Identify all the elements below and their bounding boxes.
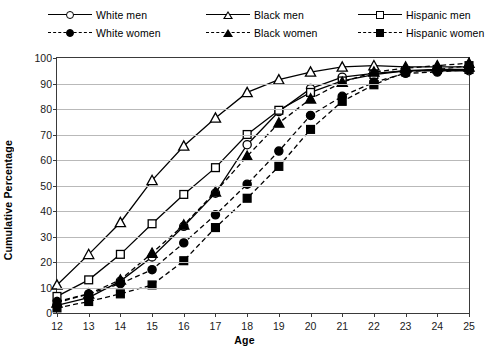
y-tick-label: 10 (40, 282, 52, 294)
data-point-marker (180, 191, 188, 199)
legend-swatch-square-filled-icon (358, 27, 402, 39)
legend-item-black-men[interactable]: Black men (206, 7, 304, 23)
legend-marker-triangle-open-icon (223, 11, 233, 19)
y-tick-label: 20 (40, 256, 52, 268)
data-point-marker (210, 113, 220, 122)
x-tick-label: 14 (115, 320, 127, 332)
legend-item-white-men[interactable]: White men (48, 7, 147, 23)
x-tick-mark (57, 313, 58, 317)
data-point-marker (370, 81, 378, 89)
y-axis-title: Cumulative Percentage (2, 140, 16, 260)
x-tick-label: 17 (210, 320, 222, 332)
data-point-marker (180, 257, 188, 265)
y-tick-mark (53, 262, 57, 263)
x-tick-mark (152, 313, 153, 317)
y-tick-mark (53, 186, 57, 187)
series-line (57, 71, 469, 306)
data-point-marker (275, 147, 283, 155)
x-tick-label: 12 (51, 320, 63, 332)
legend-item-label: Black men (254, 10, 304, 21)
y-tick-label: 100 (34, 52, 52, 64)
gridline-y (57, 160, 469, 161)
data-point-marker (465, 62, 473, 70)
data-point-marker (306, 111, 314, 119)
x-tick-label: 18 (241, 320, 253, 332)
x-tick-mark (184, 313, 185, 317)
data-point-marker (85, 276, 93, 284)
legend-item-label: Black women (254, 28, 318, 39)
x-tick-label: 22 (368, 320, 380, 332)
x-tick-mark (406, 313, 407, 317)
legend-swatch-circle-open-icon (48, 9, 92, 21)
x-tick-label: 21 (336, 320, 348, 332)
x-tick-mark (279, 313, 280, 317)
y-tick-label: 60 (40, 154, 52, 166)
x-tick-mark (311, 313, 312, 317)
legend-item-label: Hispanic women (406, 28, 484, 39)
gridline-y (57, 109, 469, 110)
legend-item-black-women[interactable]: Black women (206, 25, 318, 41)
gridline-y (57, 237, 469, 238)
data-point-marker (116, 290, 124, 298)
x-axis-title: Age (0, 334, 489, 346)
x-tick-mark (469, 313, 470, 317)
data-point-marker (148, 266, 156, 274)
gridline-y (57, 84, 469, 85)
legend-marker-circle-filled-icon (66, 29, 74, 37)
y-tick-label: 90 (40, 78, 52, 90)
gridline-y (57, 288, 469, 289)
data-point-marker (243, 194, 251, 202)
y-tick-label: 0 (46, 307, 52, 319)
legend-swatch-circle-filled-icon (48, 27, 92, 39)
data-point-marker (180, 239, 188, 247)
data-point-marker (53, 304, 61, 312)
x-tick-label: 23 (400, 320, 412, 332)
x-tick-label: 16 (178, 320, 190, 332)
series-line (57, 66, 469, 308)
data-point-marker (212, 224, 220, 232)
legend-item-hispanic-women[interactable]: Hispanic women (358, 25, 484, 41)
x-tick-label: 19 (273, 320, 285, 332)
y-tick-label: 70 (40, 129, 52, 141)
chart-legend: White menWhite womenBlack menBlack women… (48, 6, 478, 42)
data-point-marker (307, 126, 315, 134)
y-tick-label: 30 (40, 231, 52, 243)
data-point-marker (243, 141, 251, 149)
y-tick-mark (53, 58, 57, 59)
data-point-marker (275, 106, 283, 114)
legend-swatch-square-open-icon (358, 9, 402, 21)
legend-marker-circle-open-icon (66, 11, 74, 19)
legend-item-white-women[interactable]: White women (48, 25, 161, 41)
x-tick-label: 24 (431, 320, 443, 332)
x-tick-mark (437, 313, 438, 317)
legend-marker-square-filled-icon (376, 29, 384, 37)
x-tick-mark (247, 313, 248, 317)
gridline-y (57, 211, 469, 212)
data-point-marker (212, 164, 220, 172)
data-point-marker (85, 298, 93, 306)
data-point-marker (242, 87, 252, 96)
y-tick-mark (53, 109, 57, 110)
data-point-marker (402, 68, 410, 76)
x-tick-mark (215, 313, 216, 317)
gridline-y (57, 186, 469, 187)
plot-wrapper: Cumulative Percentage 010203040506070809… (0, 44, 489, 352)
y-tick-label: 80 (40, 103, 52, 115)
x-tick-label: 13 (83, 320, 95, 332)
y-tick-mark (53, 211, 57, 212)
series-black-men (52, 61, 474, 290)
y-tick-mark (53, 237, 57, 238)
legend-swatch-triangle-open-icon (206, 9, 250, 21)
data-point-marker (433, 66, 441, 74)
x-tick-mark (120, 313, 121, 317)
y-tick-mark (53, 160, 57, 161)
x-tick-mark (89, 313, 90, 317)
x-tick-label: 20 (305, 320, 317, 332)
chart-figure: White menWhite womenBlack menBlack women… (0, 0, 489, 352)
legend-item-hispanic-men[interactable]: Hispanic men (358, 7, 471, 23)
x-tick-mark (374, 313, 375, 317)
data-point-marker (243, 180, 251, 188)
data-point-marker (148, 220, 156, 228)
y-tick-mark (53, 135, 57, 136)
series-white-men (53, 67, 473, 310)
